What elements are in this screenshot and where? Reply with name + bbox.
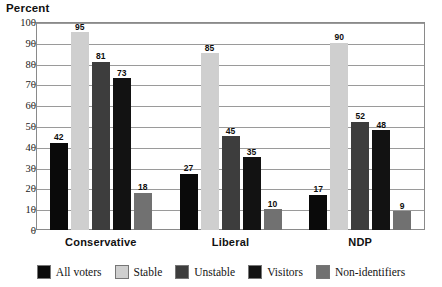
bar-value-label: 17 (313, 185, 322, 194)
bar: 85 (201, 53, 219, 230)
legend-item: Unstable (175, 265, 235, 279)
y-axis-title: Percent (6, 2, 50, 14)
legend-item: Stable (115, 265, 163, 279)
legend-label: Visitors (267, 266, 303, 278)
legend-item: Visitors (248, 265, 303, 279)
legend-label: Stable (134, 266, 163, 278)
legend-swatch-icon (316, 265, 330, 279)
bar-value-label: 42 (54, 133, 63, 142)
bar-chart: Percent 1009080706050403020100 429581731… (0, 0, 442, 287)
bar-value-label: 45 (226, 127, 235, 136)
bar: 52 (351, 122, 369, 230)
legend-swatch-icon (248, 265, 262, 279)
bar: 45 (222, 136, 240, 230)
bar: 17 (309, 195, 327, 230)
legend-item: All voters (37, 265, 102, 279)
legend-item: Non-identifiers (316, 265, 405, 279)
bar: 90 (330, 43, 348, 230)
bar-value-label: 90 (334, 33, 343, 42)
x-axis-category-label: Conservative (65, 236, 137, 248)
legend-swatch-icon (115, 265, 129, 279)
bar-value-label: 73 (117, 69, 126, 78)
y-axis-tick-mark (32, 230, 36, 231)
bar-value-label: 52 (355, 112, 364, 121)
bar-value-label: 35 (247, 148, 256, 157)
bar-value-label: 81 (96, 52, 105, 61)
legend-swatch-icon (175, 265, 189, 279)
bar: 27 (180, 174, 198, 230)
bar: 10 (264, 209, 282, 230)
bar-value-label: 9 (400, 202, 405, 211)
bar-value-label: 95 (75, 23, 84, 32)
bars-layer: 42958173182785453510179052489 (36, 22, 425, 230)
x-axis-category-label: Liberal (212, 236, 249, 248)
bar-value-label: 27 (184, 164, 193, 173)
bar: 48 (372, 130, 390, 230)
legend-label: Unstable (194, 266, 235, 278)
bar: 95 (71, 32, 89, 230)
bar-value-label: 48 (376, 121, 385, 130)
bar: 9 (393, 211, 411, 230)
bar: 18 (134, 193, 152, 230)
chart-legend: All votersStableUnstableVisitorsNon-iden… (0, 261, 442, 283)
bar: 81 (92, 62, 110, 230)
legend-label: Non-identifiers (335, 266, 405, 278)
bar: 73 (113, 78, 131, 230)
bar-value-label: 85 (205, 44, 214, 53)
legend-swatch-icon (37, 265, 51, 279)
legend-label: All voters (56, 266, 102, 278)
x-axis-category-label: NDP (348, 236, 372, 248)
bar-value-label: 18 (138, 183, 147, 192)
bar: 42 (50, 143, 68, 230)
y-axis: 1009080706050403020100 (0, 22, 36, 230)
bar-value-label: 10 (268, 200, 277, 209)
bar: 35 (243, 157, 261, 230)
